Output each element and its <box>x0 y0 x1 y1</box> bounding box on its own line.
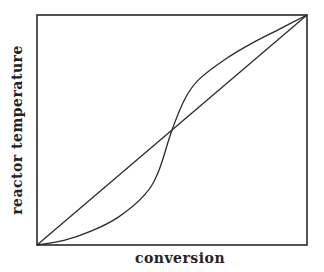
x-axis-label: conversion <box>135 250 225 266</box>
y-axis-label: reactor temperature <box>9 45 25 215</box>
chart-canvas <box>0 0 324 272</box>
